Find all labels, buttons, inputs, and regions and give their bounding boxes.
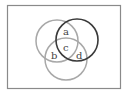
label-c: c xyxy=(63,42,69,53)
venn-diagram: a b c d xyxy=(0,0,127,96)
label-d: d xyxy=(76,50,83,61)
label-b: b xyxy=(51,50,57,61)
label-a: a xyxy=(63,26,69,37)
